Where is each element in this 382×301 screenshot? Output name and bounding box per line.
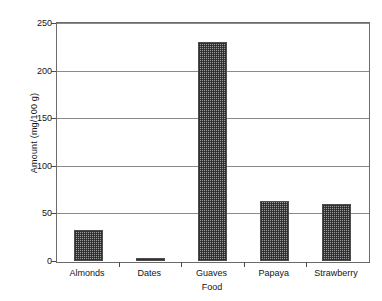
y-axis-tick-label: 150 xyxy=(22,114,52,123)
y-axis-tick-mark xyxy=(51,213,56,214)
y-axis-tick-label: 200 xyxy=(22,66,52,75)
x-axis-tick-label: Strawberry xyxy=(314,268,358,279)
y-axis-tick-mark xyxy=(51,23,56,24)
y-axis-tick-label: 0 xyxy=(22,257,52,266)
x-axis-tick-mark xyxy=(119,262,120,267)
y-axis-tick-labels: 050100150200250 xyxy=(22,0,52,301)
x-axis-tick-label: Dates xyxy=(138,268,162,279)
bars-layer xyxy=(57,23,368,261)
y-axis-tick-mark xyxy=(51,71,56,72)
y-axis-tick-label: 250 xyxy=(22,19,52,28)
y-axis-tick-mark xyxy=(51,166,56,167)
bar-almonds xyxy=(74,230,103,261)
x-axis-tick-mark xyxy=(181,262,182,267)
bar-dates xyxy=(136,258,165,261)
y-axis-tick-label: 50 xyxy=(22,209,52,218)
y-axis-tick-mark xyxy=(51,118,56,119)
x-axis-tick-label: Guaves xyxy=(196,268,227,279)
x-axis-tick-label: Papaya xyxy=(258,268,289,279)
x-axis-tick-labels: AlmondsDatesGuavesPapayaStrawberry xyxy=(56,268,368,282)
bar-strawberry xyxy=(322,204,351,261)
y-axis-tick-mark xyxy=(51,261,56,262)
bar-guaves xyxy=(198,42,227,261)
bar-papaya xyxy=(260,201,289,261)
y-axis-tick-label: 100 xyxy=(22,161,52,170)
x-axis-tick-label: Almonds xyxy=(70,268,105,279)
x-axis-tick-mark xyxy=(244,262,245,267)
x-axis-tick-mark xyxy=(306,262,307,267)
bar-chart: Amount (mg/100 g) 050100150200250 Almond… xyxy=(0,0,382,301)
x-axis-title: Food xyxy=(56,282,368,292)
